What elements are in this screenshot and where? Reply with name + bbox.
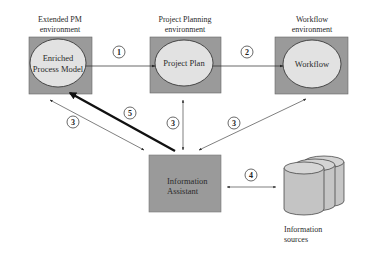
information-sources: Information sources: [284, 156, 344, 244]
connection-5: 5: [70, 93, 175, 151]
database-cylinder-front: [284, 162, 324, 215]
workflow-environment: Workflow environment Workflow: [275, 15, 348, 94]
label-3b: 3: [171, 119, 175, 128]
label-5: 5: [128, 109, 132, 118]
information-sources-line1: Information: [284, 225, 322, 234]
connection-4: 4: [227, 169, 276, 187]
enriched-process-model-line2: Process Model: [33, 64, 84, 74]
extended-pm-environment: Extended PM environment Enriched Process…: [29, 15, 92, 94]
workflow-title-line1: Workflow: [296, 15, 328, 24]
connection-2: 2: [213, 46, 283, 66]
label-4: 4: [249, 171, 253, 180]
connection-3-workflow: 3: [199, 99, 306, 150]
project-planning-title-line2: environment: [165, 25, 206, 34]
diagram-canvas: Extended PM environment Enriched Process…: [0, 0, 366, 254]
connection-3-project-planning: 3: [167, 100, 183, 150]
workflow-title-line2: environment: [292, 25, 333, 34]
label-1: 1: [117, 48, 121, 57]
label-2: 2: [245, 48, 249, 57]
information-assistant-line1: Information: [167, 176, 208, 186]
information-assistant-line2: Assistant: [167, 186, 199, 196]
information-sources-line2: sources: [284, 235, 308, 244]
connection-1: 1: [86, 46, 155, 66]
extended-pm-title-line2: environment: [40, 25, 81, 34]
enriched-process-model-node: [30, 39, 86, 87]
arrow-3c: [199, 99, 306, 150]
workflow-label: Workflow: [295, 59, 330, 69]
project-planning-title-line1: Project Planning: [158, 15, 211, 24]
extended-pm-title-line1: Extended PM: [38, 15, 82, 24]
label-3a: 3: [71, 118, 75, 127]
enriched-process-model-line1: Enriched: [43, 53, 74, 63]
label-3c: 3: [232, 119, 236, 128]
arrow-5-bold: [70, 93, 175, 151]
project-plan-label: Project Plan: [163, 58, 205, 68]
information-assistant: Information Assistant: [149, 155, 221, 212]
project-planning-environment: Project Planning environment Project Pla…: [150, 15, 221, 93]
